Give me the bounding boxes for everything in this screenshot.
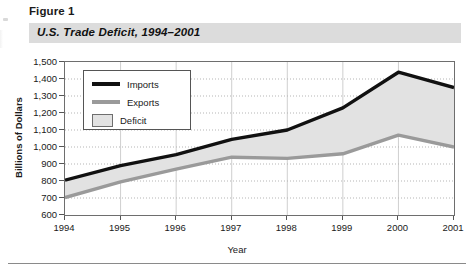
deficit-area-swatch-icon bbox=[92, 114, 113, 127]
y-tick-label: 700 bbox=[13, 192, 57, 203]
scan-artifact-edge bbox=[0, 30, 3, 48]
legend-item-imports: Imports bbox=[92, 76, 159, 92]
x-tick-label: 1995 bbox=[100, 222, 140, 233]
y-tick-label: 1,000 bbox=[13, 141, 57, 152]
y-tick-label: 1,300 bbox=[13, 90, 57, 101]
legend-item-exports: Exports bbox=[92, 94, 159, 110]
y-tick-label: 600 bbox=[13, 209, 57, 220]
scan-artifact bbox=[3, 18, 8, 21]
y-tick-label: 900 bbox=[13, 158, 57, 169]
x-tick-label: 1999 bbox=[322, 222, 362, 233]
figure-title: U.S. Trade Deficit, 1994–2001 bbox=[37, 26, 200, 38]
y-tick-label: 1,100 bbox=[13, 124, 57, 135]
legend-label-imports: Imports bbox=[127, 79, 159, 90]
exports-line-swatch-icon bbox=[92, 100, 120, 104]
x-axis-label: Year bbox=[0, 244, 474, 255]
x-tick-label: 2000 bbox=[377, 222, 417, 233]
chart-area: Billions of Dollars 6007008009001,0001,1… bbox=[0, 52, 474, 267]
x-tick-label: 1996 bbox=[155, 222, 195, 233]
legend-label-exports: Exports bbox=[127, 97, 159, 108]
x-tick-label: 1998 bbox=[266, 222, 306, 233]
x-tick-label: 2001 bbox=[433, 222, 473, 233]
y-tick-label: 1,400 bbox=[13, 73, 57, 84]
legend-label-deficit: Deficit bbox=[120, 115, 146, 126]
y-tick-label: 1,500 bbox=[13, 56, 57, 67]
bottom-rule bbox=[8, 263, 466, 264]
y-tick-label: 1,200 bbox=[13, 107, 57, 118]
figure-label: Figure 1 bbox=[29, 5, 75, 17]
x-tick-label: 1997 bbox=[211, 222, 251, 233]
legend-item-deficit: Deficit bbox=[92, 112, 146, 128]
x-tick-label: 1994 bbox=[44, 222, 84, 233]
figure-page: Figure 1 U.S. Trade Deficit, 1994–2001 B… bbox=[0, 0, 474, 267]
chart-legend: Imports Exports Deficit bbox=[83, 70, 191, 130]
plot-frame: Imports Exports Deficit bbox=[64, 61, 455, 216]
y-tick-label: 800 bbox=[13, 175, 57, 186]
imports-line-swatch-icon bbox=[92, 82, 120, 86]
